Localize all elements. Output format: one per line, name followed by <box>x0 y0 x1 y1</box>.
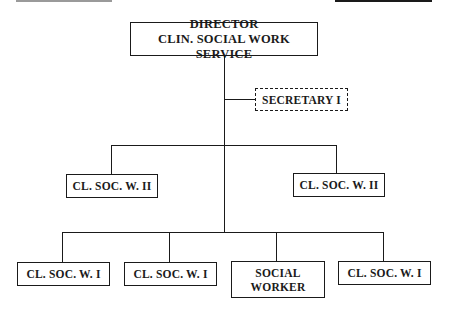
node-label-line2: WORKER <box>251 280 306 294</box>
connector-level3-drop-3 <box>276 232 277 261</box>
node-director-title: DIRECTOR <box>190 17 259 32</box>
node-director: DIRECTOR CLIN. SOCIAL WORK SERVICE <box>130 22 318 56</box>
connector-level3-bus <box>62 232 384 233</box>
node-level2-left: CL. SOC. W. II <box>66 174 158 198</box>
node-label-line1: SOCIAL <box>255 266 300 280</box>
node-label: CL. SOC. W. II <box>73 179 152 193</box>
node-label: CL. SOC. W. II <box>300 178 379 192</box>
node-level3-social-worker: SOCIAL WORKER <box>231 261 325 298</box>
connector-level2-bus <box>111 145 337 146</box>
connector-level3-drop-4 <box>383 232 384 261</box>
node-director-subtitle: CLIN. SOCIAL WORK SERVICE <box>131 32 317 62</box>
connector-secretary <box>224 99 255 100</box>
node-level3-1: CL. SOC. W. I <box>17 262 110 286</box>
connector-level2-left-drop <box>111 145 112 174</box>
node-secretary: SECRETARY I <box>255 88 348 111</box>
connector-level3-drop-2 <box>169 232 170 262</box>
top-edge-dark-bar <box>335 0 432 2</box>
connector-level3-drop-1 <box>62 232 63 262</box>
node-label: CL. SOC. W. I <box>133 267 207 281</box>
connector-level2-right-drop <box>336 145 337 173</box>
node-level2-right: CL. SOC. W. II <box>293 173 385 197</box>
node-label: CL. SOC. W. I <box>26 267 100 281</box>
node-secretary-label: SECRETARY I <box>262 93 341 107</box>
connector-director-trunk <box>224 55 225 232</box>
top-edge-gray-bar <box>16 0 112 2</box>
node-level3-4: CL. SOC. W. I <box>338 261 431 285</box>
node-label: CL. SOC. W. I <box>347 266 421 280</box>
node-level3-2: CL. SOC. W. I <box>124 262 217 286</box>
